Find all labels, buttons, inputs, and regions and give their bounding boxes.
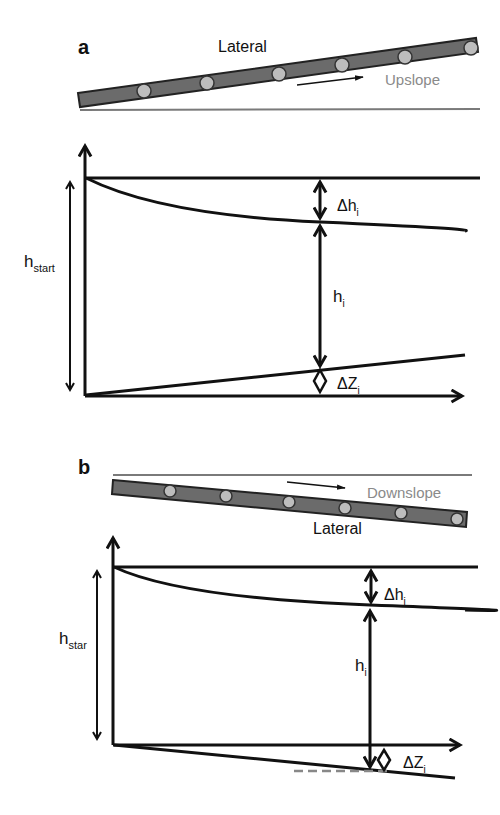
emitter <box>272 67 286 81</box>
emitter <box>220 490 232 502</box>
panel-a: a Lateral Upslope hstart Δhi <box>24 36 480 396</box>
panel-b-delta-z-marker <box>378 750 390 770</box>
panel-a-delta-z-label: ΔZi <box>337 375 360 396</box>
emitter <box>164 485 176 497</box>
panel-b: b Downslope Lateral hstar Δhi <box>59 456 497 778</box>
panel-a-flow-arrow <box>297 77 363 85</box>
diagram-canvas: a Lateral Upslope hstart Δhi <box>0 0 500 815</box>
panel-b-delta-h-label: Δhi <box>384 586 406 607</box>
emitter <box>398 50 412 64</box>
emitter <box>464 41 478 55</box>
panel-b-h-i-label: hi <box>355 656 367 678</box>
emitter <box>339 502 351 514</box>
panel-b-pressure-curve <box>114 567 497 610</box>
emitter <box>335 58 349 72</box>
emitter <box>200 76 214 90</box>
panel-a-ground-line <box>80 109 480 110</box>
panel-a-delta-h-label: Δhi <box>337 197 359 218</box>
panel-a-h-start-label: hstart <box>24 252 55 274</box>
emitter <box>283 496 295 508</box>
panel-a-lateral-label: Lateral <box>218 38 267 55</box>
panel-b-label: b <box>78 456 90 478</box>
panel-a-label: a <box>78 36 90 58</box>
emitter <box>451 513 463 525</box>
panel-a-slope-label: Upslope <box>385 71 440 88</box>
panel-b-slope-label: Downslope <box>367 484 441 501</box>
panel-b-lateral-label: Lateral <box>313 520 362 537</box>
panel-a-pressure-curve <box>86 178 466 231</box>
panel-a-h-i-label: hi <box>333 287 345 309</box>
panel-a-ground-slope-line <box>86 355 465 395</box>
emitter <box>137 84 151 98</box>
panel-a-delta-z-marker <box>314 370 326 392</box>
panel-b-h-start-label: hstar <box>59 629 87 651</box>
panel-b-flow-arrow <box>287 482 345 488</box>
emitter <box>395 507 407 519</box>
